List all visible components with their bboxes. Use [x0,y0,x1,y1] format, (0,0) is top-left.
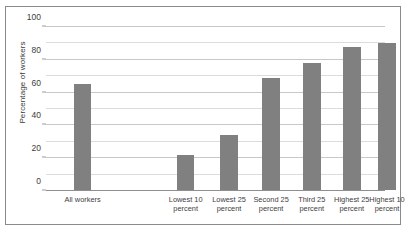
x-axis-label: Lowest 25percent [212,195,246,213]
y-axis-tick-mark [42,58,46,59]
x-axis-label-line: percent [369,204,404,213]
bar [220,135,238,190]
gridline [46,59,385,60]
x-axis-label-line: Third 25 [298,195,325,204]
x-axis-label-line: percent [212,204,246,213]
x-axis-line [46,190,385,191]
x-axis-label-line: Lowest 10 [169,195,203,204]
x-axis-label: Highest 25percent [334,195,369,213]
gridline [46,124,385,125]
y-axis-tick-label: 20 [32,143,41,153]
bar [303,63,321,190]
y-axis-tick-label: 60 [32,78,41,88]
bar [343,47,361,190]
gridline [46,141,385,142]
x-axis-label-line: percent [298,204,325,213]
x-axis-label-line: percent [334,204,369,213]
gridline [46,92,385,93]
bar [378,43,396,190]
y-axis-tick-label: 40 [32,110,41,120]
x-axis-label-line: All workers [65,195,101,204]
x-axis-label: Lowest 10percent [169,195,203,213]
bar [74,84,92,190]
y-axis-tick-label: 0 [36,176,41,186]
y-axis-tick-mark [42,157,46,158]
gridline [46,108,385,109]
gridline [46,42,385,43]
gridline [46,157,385,158]
plot-area: 020406080100 All workersLowest 10percent… [46,27,385,191]
y-axis-tick-mark [42,91,46,92]
x-axis-label: Highest 10percent [369,195,404,213]
x-axis-label: Second 25percent [253,195,288,213]
x-axis-label-line: Lowest 25 [212,195,246,204]
x-axis-label-line: Second 25 [253,195,288,204]
x-axis-label-line: Highest 10 [369,195,404,204]
y-axis-tick-label: 100 [27,12,41,22]
x-axis-label-line: percent [169,204,203,213]
y-axis-tick-mark [42,124,46,125]
bar [262,78,280,190]
y-axis-title: Percentage of workers [18,23,27,143]
x-axis-label-line: percent [253,204,288,213]
bar [177,155,195,190]
gridline [46,26,385,27]
gridline [46,174,385,175]
x-axis-label: Third 25percent [298,195,325,213]
x-axis-label-line: Highest 25 [334,195,369,204]
y-axis-tick-mark [42,26,46,27]
y-axis-tick-label: 80 [32,45,41,55]
x-axis-label: All workers [65,195,101,204]
gridline [46,75,385,76]
chart-figure: Percentage of workers 020406080100 All w… [0,0,411,241]
